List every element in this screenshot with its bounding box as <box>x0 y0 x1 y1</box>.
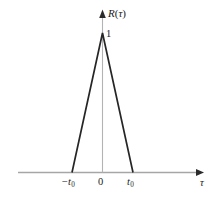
y-axis-label: R(τ) <box>108 8 126 19</box>
x-axis-label: τ <box>200 178 204 189</box>
x-tick-neg-subscript: 0 <box>71 181 75 189</box>
x-tick-label-positive-t0: t0 <box>127 177 134 188</box>
triangular-autocorrelation-figure: R(τ) 1 τ −t0 0 t0 <box>0 0 215 204</box>
x-tick-label-negative-t0: −t0 <box>62 177 74 188</box>
x-tick-pos-subscript: 0 <box>130 181 134 189</box>
x-axis-group <box>18 169 204 176</box>
x-tick-label-origin: 0 <box>98 177 103 188</box>
y-axis-arrowhead <box>99 10 106 19</box>
x-axis-arrowhead <box>196 169 204 176</box>
y-axis-label-paren-close: ) <box>122 7 126 19</box>
peak-value-label: 1 <box>106 29 111 40</box>
y-axis-label-symbol: R <box>108 7 115 19</box>
